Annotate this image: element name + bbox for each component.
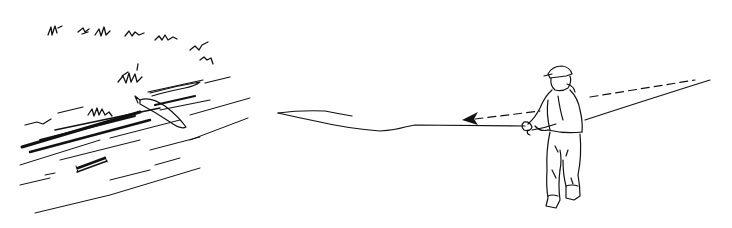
fly-fishing-illustration	[0, 0, 732, 228]
fly-rod	[585, 80, 710, 120]
submerged-log	[76, 157, 107, 172]
angler-in-waders	[522, 66, 582, 208]
riverbank-grass	[48, 26, 213, 116]
fly-line-on-water	[278, 111, 525, 131]
